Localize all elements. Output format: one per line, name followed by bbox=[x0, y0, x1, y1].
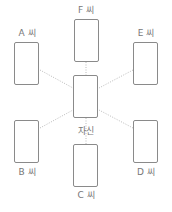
label-c: C 씨 bbox=[77, 190, 94, 200]
label-d: D 씨 bbox=[137, 167, 155, 177]
label-e: E 씨 bbox=[138, 28, 155, 38]
card-c bbox=[73, 144, 98, 187]
card-d bbox=[133, 120, 158, 163]
card-f bbox=[74, 19, 99, 62]
card-e bbox=[133, 42, 158, 85]
label-f: F 씨 bbox=[78, 5, 94, 15]
card-self bbox=[73, 75, 98, 118]
label-self: 자신 bbox=[78, 126, 94, 136]
card-a bbox=[14, 42, 39, 85]
card-b bbox=[14, 120, 39, 163]
label-b: B 씨 bbox=[18, 167, 35, 177]
label-a: A 씨 bbox=[18, 28, 35, 38]
